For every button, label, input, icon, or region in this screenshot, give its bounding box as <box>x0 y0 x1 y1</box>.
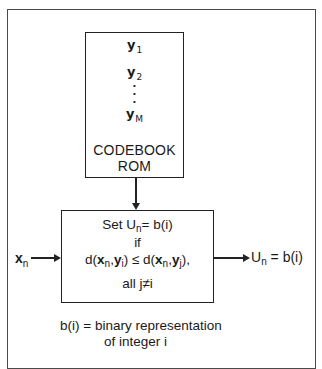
decision-line-condition: d(xn,yi) ≤ d(xn,yj), <box>62 252 213 272</box>
arrow-head-down-icon <box>132 203 140 210</box>
footnote-line2: of integer i <box>60 334 260 350</box>
footnote: b(i) = binary representation of integer … <box>60 318 260 350</box>
ellipsis-dot: . <box>86 96 183 104</box>
decision-line-all: all j≠i <box>62 276 213 292</box>
arrow-head-right-icon <box>54 254 61 262</box>
input-arrow <box>31 257 55 259</box>
codebook-vector-yM: yM <box>86 107 183 126</box>
output-un-label: Un = b(i) <box>251 249 303 267</box>
codebook-rom-box: y1 y2 . . . yM CODEBOOK ROM <box>85 32 184 178</box>
footnote-line1: b(i) = binary representation <box>60 318 260 334</box>
codebook-label: CODEBOOK <box>86 142 183 158</box>
codebook-to-decision-arrow <box>135 178 137 204</box>
rom-label: ROM <box>86 158 183 174</box>
codebook-vector-y1: y1 <box>86 38 183 57</box>
decision-line-if: if <box>62 235 213 251</box>
decision-line-set: Set Un= b(i) <box>62 217 213 237</box>
nearest-neighbor-decision-box: Set Un= b(i) if d(xn,yi) ≤ d(xn,yj), all… <box>61 210 214 303</box>
input-xn-label: xn <box>15 250 28 269</box>
output-arrow <box>214 257 244 259</box>
arrow-head-right-icon <box>243 254 250 262</box>
